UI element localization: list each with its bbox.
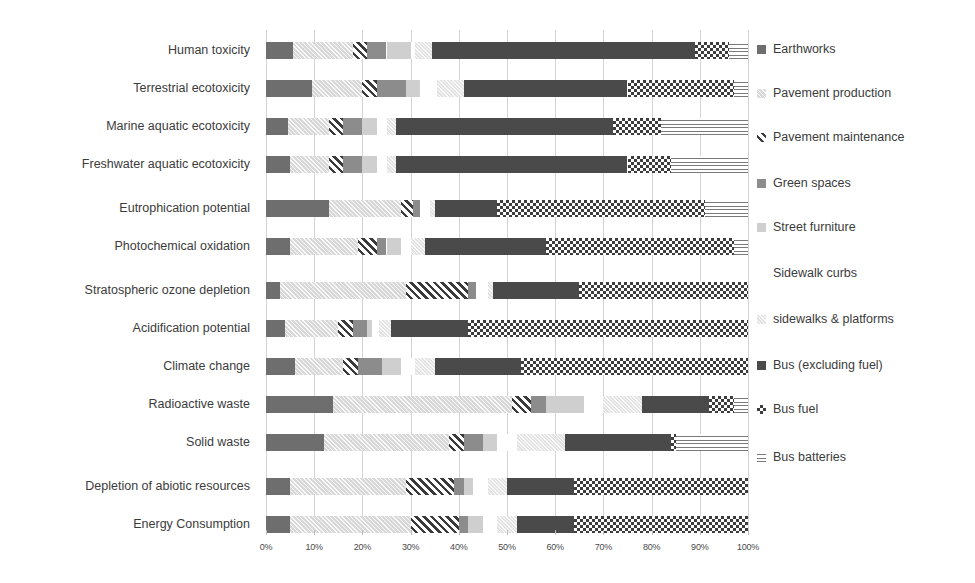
bar-segment-green_spaces bbox=[343, 156, 362, 173]
bar-segment-green_spaces bbox=[454, 478, 464, 495]
legend-item[interactable]: sidewalks & platforms bbox=[757, 312, 894, 326]
x-tick-label: 40% bbox=[450, 542, 467, 552]
bar-segment-pavement_production bbox=[293, 42, 353, 59]
x-tick bbox=[411, 530, 412, 535]
bar-segment-bus_fuel bbox=[468, 320, 748, 337]
bar-segment-street_furniture bbox=[468, 516, 482, 533]
bar-segment-bus_excluding_fuel bbox=[517, 516, 575, 533]
bar-segment-street_furniture bbox=[362, 118, 376, 135]
legend-item[interactable]: Bus batteries bbox=[757, 450, 846, 464]
legend-label: Bus (excluding fuel) bbox=[773, 358, 883, 372]
bar-segment-bus_excluding_fuel bbox=[391, 320, 468, 337]
bar-segment-bus_fuel bbox=[521, 358, 748, 375]
legend-swatch-bus_excluding_fuel-icon bbox=[757, 361, 766, 370]
bar-segment-bus_batteries bbox=[734, 80, 748, 97]
bar-segment-bus_excluding_fuel bbox=[435, 358, 522, 375]
bar-segment-sidewalks_platforms bbox=[387, 156, 397, 173]
legend-item[interactable]: Pavement production bbox=[757, 86, 891, 100]
stacked-bar-chart: Human toxicityTerrestrial ecotoxicityMar… bbox=[0, 0, 975, 583]
bar-segment-bus_excluding_fuel bbox=[396, 156, 627, 173]
chart-legend: EarthworksPavement productionPavement ma… bbox=[757, 30, 975, 530]
bar-segment-green_spaces bbox=[459, 516, 469, 533]
x-tick bbox=[507, 530, 508, 535]
bar-segment-earthworks bbox=[266, 358, 295, 375]
bar-segment-green_spaces bbox=[353, 320, 367, 337]
bar-segment-sidewalk_curbs bbox=[497, 434, 516, 451]
legend-item[interactable]: Bus (excluding fuel) bbox=[757, 358, 883, 372]
bar-segment-bus_fuel bbox=[695, 42, 729, 59]
bar-segment-pavement_maintenance bbox=[329, 118, 343, 135]
x-tick bbox=[314, 530, 315, 535]
bar-segment-earthworks bbox=[266, 42, 293, 59]
bar-segment-earthworks bbox=[266, 282, 280, 299]
x-tick bbox=[603, 530, 604, 535]
table-row bbox=[266, 478, 748, 495]
category-label: Energy Consumption bbox=[133, 517, 250, 531]
legend-label: Pavement maintenance bbox=[773, 130, 904, 144]
bar-segment-bus_excluding_fuel bbox=[565, 434, 671, 451]
bar-segment-sidewalk_curbs bbox=[420, 80, 437, 97]
bar-segment-street_furniture bbox=[546, 396, 585, 413]
gridline bbox=[266, 30, 267, 530]
table-row bbox=[266, 238, 748, 255]
x-tick-label: 60% bbox=[546, 542, 563, 552]
bar-segment-pavement_maintenance bbox=[343, 358, 357, 375]
bar-segment-street_furniture bbox=[382, 358, 401, 375]
legend-label: Street furniture bbox=[773, 220, 856, 234]
legend-item[interactable]: Street furniture bbox=[757, 220, 856, 234]
bar-segment-earthworks bbox=[266, 320, 285, 337]
bar-segment-street_furniture bbox=[387, 238, 401, 255]
x-tick-label: 100% bbox=[737, 542, 759, 552]
gridline bbox=[362, 30, 363, 530]
gridline bbox=[555, 30, 556, 530]
gridline bbox=[700, 30, 701, 530]
bar-segment-bus_excluding_fuel bbox=[432, 42, 695, 59]
bar-segment-bus_batteries bbox=[661, 118, 748, 135]
table-row bbox=[266, 118, 748, 135]
gridline bbox=[507, 30, 508, 530]
legend-item[interactable]: Sidewalk curbs bbox=[757, 266, 857, 280]
table-row bbox=[266, 358, 748, 375]
legend-item[interactable]: Pavement maintenance bbox=[757, 130, 904, 144]
bar-segment-bus_excluding_fuel bbox=[642, 396, 709, 413]
legend-swatch-pavement_production-icon bbox=[757, 89, 766, 98]
bar-segment-pavement_maintenance bbox=[449, 434, 463, 451]
bar-segment-bus_excluding_fuel bbox=[464, 80, 628, 97]
bar-segment-bus_excluding_fuel bbox=[493, 282, 580, 299]
bar-segment-bus_batteries bbox=[671, 156, 748, 173]
legend-swatch-sidewalk_curbs-icon bbox=[757, 269, 766, 278]
bar-segment-pavement_production bbox=[290, 156, 329, 173]
category-label: Stratospheric ozone depletion bbox=[85, 283, 250, 297]
bar-segment-pavement_production bbox=[329, 200, 401, 217]
x-tick-label: 80% bbox=[643, 542, 660, 552]
bar-segment-earthworks bbox=[266, 478, 290, 495]
bar-segment-pavement_maintenance bbox=[406, 282, 469, 299]
bar-segment-sidewalks_platforms bbox=[437, 80, 464, 97]
legend-swatch-street_furniture-icon bbox=[757, 223, 766, 232]
bar-segment-green_spaces bbox=[413, 200, 420, 217]
bar-segment-pavement_production bbox=[312, 80, 363, 97]
bar-segment-earthworks bbox=[266, 434, 324, 451]
bar-segment-pavement_production bbox=[333, 396, 511, 413]
table-row bbox=[266, 282, 748, 299]
bar-segment-bus_batteries bbox=[734, 238, 748, 255]
legend-item[interactable]: Green spaces bbox=[757, 176, 851, 190]
bar-segment-green_spaces bbox=[358, 358, 382, 375]
bar-segment-bus_excluding_fuel bbox=[425, 238, 546, 255]
bar-segment-bus_fuel bbox=[546, 238, 734, 255]
bar-segment-street_furniture bbox=[387, 42, 411, 59]
legend-label: Green spaces bbox=[773, 176, 851, 190]
legend-item[interactable]: Bus fuel bbox=[757, 402, 818, 416]
legend-item[interactable]: Earthworks bbox=[757, 42, 836, 56]
bar-segment-pavement_maintenance bbox=[411, 516, 459, 533]
bar-segment-bus_fuel bbox=[613, 118, 661, 135]
category-label: Acidification potential bbox=[133, 321, 250, 335]
legend-swatch-bus_batteries-icon bbox=[757, 453, 766, 462]
table-row bbox=[266, 320, 748, 337]
bar-segment-sidewalk_curbs bbox=[584, 396, 603, 413]
bar-segment-pavement_production bbox=[324, 434, 449, 451]
legend-swatch-earthworks-icon bbox=[757, 45, 766, 54]
bar-segment-earthworks bbox=[266, 396, 333, 413]
bar-segment-bus_excluding_fuel bbox=[507, 478, 574, 495]
bar-segment-bus_fuel bbox=[628, 156, 671, 173]
